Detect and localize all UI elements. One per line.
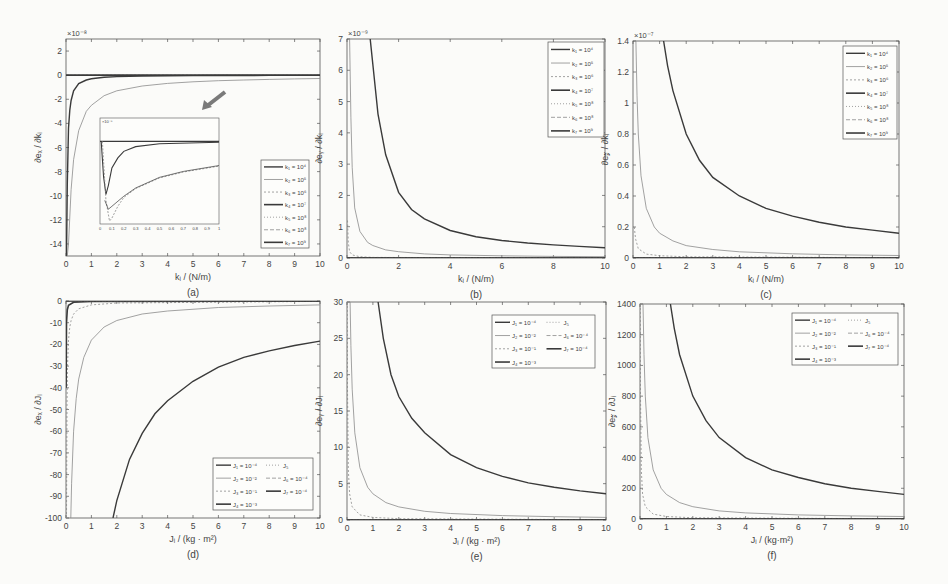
x-tick-label: 10 (315, 521, 325, 531)
x-tick-label: 1 (371, 523, 376, 533)
x-tick-label: 1 (89, 521, 94, 531)
legend: k₁ = 10⁴k₂ = 10⁵k₃ = 10⁶k₄ = 10⁷k₅ = 10⁸… (548, 42, 604, 137)
x-tick-label: 9 (292, 521, 297, 531)
figure-canvas: 01234567891020-2-4-6-8-10-12-14×10⁻⁸kᵢ /… (0, 0, 948, 584)
x-tick-label: 4 (743, 522, 748, 532)
y-tick-label: -90 (50, 491, 63, 501)
x-tick-label: 7 (822, 522, 827, 532)
y-tick-label: 0 (624, 253, 629, 263)
x-tick-label: 6 (499, 261, 504, 271)
y-tick-label: 2 (57, 46, 62, 56)
x-tick-label: 10 (600, 261, 610, 271)
x-axis-label: Jᵢ / (kg · m²) (453, 536, 500, 546)
legend: J₁ = 10⁻⁴J₂ = 10⁻²J₃ = 10⁻¹J₄ = 10⁻³J₅J₆… (492, 315, 595, 368)
x-tick-label: 9 (578, 523, 583, 533)
x-tick-label: 8 (849, 522, 854, 532)
legend-entry: k₂ = 10⁵ (285, 177, 307, 183)
x-tick-label: 6 (796, 522, 801, 532)
y-tick-label: 600 (622, 422, 636, 432)
legend-entry: J₃ = 10⁻¹ (233, 489, 257, 495)
x-tick-label: 8 (267, 521, 272, 531)
x-tick-label: 8 (267, 259, 272, 269)
y-tick-label: 1200 (617, 330, 636, 340)
panel-b: 024681001234567×10⁻⁹kᵢ / (N/m)∂eᵧ / ∂kᵢ(… (314, 29, 610, 300)
x-tick-label: 8 (551, 261, 556, 271)
y-tick-label: 4 (338, 128, 343, 138)
inset-tick-label: 0.2 (121, 226, 127, 231)
y-tick-label: 3 (338, 159, 343, 169)
x-axis-label: Jᵢ / (kg · m²) (169, 534, 216, 544)
x-tick-label: 7 (241, 259, 246, 269)
x-tick-label: 0 (631, 261, 636, 271)
x-tick-label: 0 (345, 261, 350, 271)
x-tick-label: 3 (140, 259, 145, 269)
series-line (348, 221, 606, 259)
legend-entry: J₇ = 10⁻⁴ (564, 346, 589, 352)
legend-entry: k₆ = 10⁸ (285, 227, 307, 233)
panel-caption: (c) (760, 289, 772, 300)
x-tick-label: 6 (216, 521, 221, 531)
legend-entry: J₇ = 10⁻⁴ (865, 344, 890, 350)
legend-entry: k₄ = 10⁷ (867, 91, 888, 97)
chart-panels: 01234567891020-2-4-6-8-10-12-14×10⁻⁸kᵢ /… (33, 29, 909, 562)
y-axis-label: ∂eᵧ / ∂kᵢ (314, 133, 324, 163)
x-tick-label: 4 (448, 523, 453, 533)
inset-tick-label: 0 (99, 226, 102, 231)
y-tick-label: 0 (338, 253, 343, 263)
y-tick-label: -4 (54, 118, 62, 128)
x-tick-label: 0 (64, 521, 69, 531)
legend-entry: k₆ = 10⁸ (867, 117, 889, 123)
legend-entry: J₁ = 10⁻⁴ (512, 320, 537, 326)
y-axis-label: ∂e𝓏 / ∂Jᵢ (607, 396, 617, 427)
y-tick-label: 1.4 (617, 36, 629, 46)
x-tick-label: 1 (657, 261, 662, 271)
y-tick-label: 2 (338, 190, 343, 200)
x-tick-label: 5 (191, 521, 196, 531)
x-tick-label: 4 (165, 259, 170, 269)
x-tick-label: 4 (448, 261, 453, 271)
x-tick-label: 10 (894, 261, 904, 271)
x-tick-label: 0 (64, 259, 69, 269)
legend-entry: J₇ = 10⁻⁴ (283, 489, 308, 495)
x-tick-label: 2 (684, 261, 689, 271)
legend-entry: J₄ = 10⁻³ (812, 357, 836, 363)
y-exponent-label: ×10⁻⁹ (348, 29, 368, 38)
inset-tick-label: 0.1 (109, 226, 115, 231)
x-tick-label: 4 (165, 521, 170, 531)
x-tick-label: 9 (870, 261, 875, 271)
x-tick-label: 2 (396, 261, 401, 271)
x-tick-label: 10 (899, 522, 909, 532)
legend-entry: J₆ = 10⁻⁴ (865, 331, 890, 337)
x-tick-label: 1 (664, 522, 669, 532)
legend-entry: k₁ = 10⁴ (285, 164, 307, 170)
panel-e: 012345678910051015202530Jᵢ / (kg · m²)∂e… (314, 297, 611, 562)
y-tick-label: 0.8 (617, 129, 629, 139)
legend-entry: k₂ = 10⁵ (572, 61, 594, 67)
y-tick-label: -14 (50, 239, 63, 249)
y-tick-label: 800 (622, 391, 636, 401)
y-tick-label: 1.2 (617, 67, 629, 77)
inset-tick-label: 0.7 (181, 226, 187, 231)
y-tick-label: -100 (45, 513, 62, 523)
x-axis-label: kᵢ / (N/m) (748, 274, 784, 284)
y-tick-label: 0.2 (617, 222, 629, 232)
legend-entry: k₆ = 10⁸ (572, 115, 594, 121)
legend-entry: J₅ (283, 463, 289, 469)
legend-entry: J₅ (564, 320, 570, 326)
x-tick-label: 2 (396, 523, 401, 533)
x-tick-label: 3 (710, 261, 715, 271)
legend-entry: J₂ = 10⁻² (512, 333, 536, 339)
x-tick-label: 10 (315, 259, 325, 269)
inset-tick-label: 0.9 (204, 226, 210, 231)
y-tick-label: 6 (338, 65, 343, 75)
panel-caption: (e) (470, 551, 482, 562)
y-tick-label: -2 (54, 94, 62, 104)
legend-entry: k₁ = 10⁴ (867, 51, 889, 57)
x-tick-label: 2 (690, 522, 695, 532)
y-tick-label: -6 (54, 143, 62, 153)
y-tick-label: -20 (50, 339, 63, 349)
y-tick-label: 30 (334, 297, 344, 307)
y-tick-label: 5 (338, 479, 343, 489)
y-tick-label: -10 (50, 191, 63, 201)
legend-entry: J₆ = 10⁻⁴ (564, 333, 589, 339)
